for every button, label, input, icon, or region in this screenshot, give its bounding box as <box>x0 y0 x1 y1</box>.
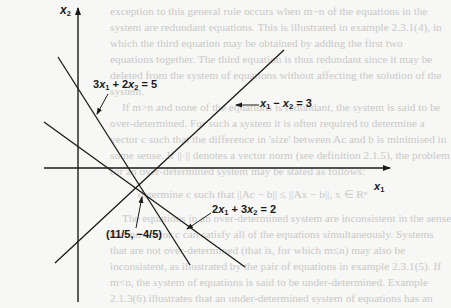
callout-arrow-eq3 <box>187 213 211 229</box>
intersection-point-label: (11/5, −4/5) <box>106 228 162 240</box>
label-eq2: x1 − x2 = 3 <box>260 97 312 111</box>
callout-arrow-eq1 <box>97 94 108 114</box>
label-eq1: 3x1 + 2x2 = 5 <box>93 78 157 92</box>
callout-arrow-intersection <box>136 197 142 228</box>
line-x1-minus-x2-eq-3 <box>55 50 284 263</box>
x1-axis-label: x1 <box>374 180 384 194</box>
label-eq3: 2x1 + 3x2 = 2 <box>212 203 276 217</box>
x2-axis-label: x22 <box>60 3 71 18</box>
